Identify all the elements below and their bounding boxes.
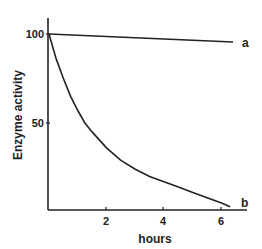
x-tick-label-2: 2 (103, 215, 109, 227)
series-a-line (49, 34, 233, 42)
y-tick-label-100: 100 (26, 28, 44, 40)
y-tick-label-50: 50 (32, 117, 44, 129)
series-b-line (49, 34, 230, 207)
enzyme-activity-chart: 100 50 2 4 6 hours Enzyme activity a b (0, 0, 262, 249)
x-tick-label-6: 6 (218, 215, 224, 227)
x-axis-label: hours (138, 232, 172, 246)
series-a-label: a (242, 36, 249, 50)
y-axis-label: Enzyme activity (11, 70, 25, 160)
series-b-label: b (241, 196, 248, 210)
x-tick-label-4: 4 (160, 215, 167, 227)
